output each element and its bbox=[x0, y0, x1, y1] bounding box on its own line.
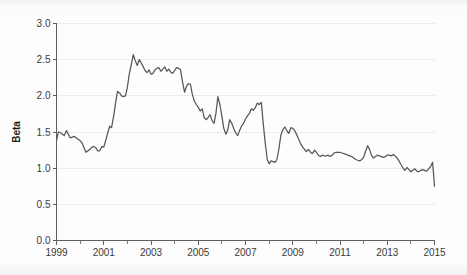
beta-time-series-chart: 0.00.51.01.52.02.53.0 199920012003200520… bbox=[0, 0, 467, 275]
x-tick-label: 2005 bbox=[187, 247, 210, 258]
x-tick-label: 2015 bbox=[423, 247, 446, 258]
y-tick-label: 1.0 bbox=[37, 163, 51, 174]
x-tick-label: 2003 bbox=[140, 247, 163, 258]
y-tick-labels: 0.00.51.01.52.02.53.0 bbox=[37, 18, 51, 246]
gridlines bbox=[57, 24, 435, 205]
beta-series-line bbox=[57, 55, 435, 187]
x-tick-labels: 199920012003200520072009201120132015 bbox=[45, 247, 446, 258]
chart-figure: 0.00.51.01.52.02.53.0 199920012003200520… bbox=[0, 0, 467, 275]
x-tick-label: 2007 bbox=[234, 247, 257, 258]
x-tick-label: 2001 bbox=[93, 247, 116, 258]
y-tick-label: 2.0 bbox=[37, 90, 51, 101]
x-tick-label: 1999 bbox=[45, 247, 68, 258]
x-tick-label: 2009 bbox=[282, 247, 305, 258]
y-tick-label: 2.5 bbox=[37, 54, 51, 65]
y-tick-label: 1.5 bbox=[37, 127, 51, 138]
x-tick-label: 2013 bbox=[376, 247, 399, 258]
y-tick-label: 3.0 bbox=[37, 18, 51, 29]
x-tick-label: 2011 bbox=[329, 247, 351, 258]
x-axis bbox=[57, 241, 435, 245]
y-tick-label: 0.5 bbox=[37, 199, 51, 210]
y-axis bbox=[53, 24, 57, 241]
y-tick-label: 0.0 bbox=[37, 235, 51, 246]
y-axis-title: Beta bbox=[11, 121, 22, 143]
